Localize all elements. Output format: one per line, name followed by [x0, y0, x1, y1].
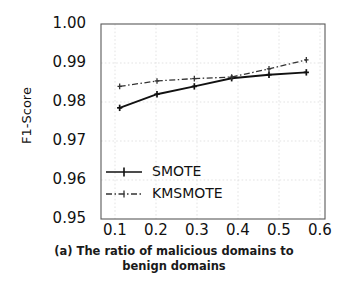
y-axis-label: F1-Score [19, 76, 34, 156]
x-tick-0-6: 0.6 [300, 223, 340, 238]
caption-line-1: (a) The ratio of malicious domains to [28, 244, 320, 259]
legend-label-kmsmote: KMSMOTE [152, 185, 223, 201]
x-tick-0-5: 0.5 [259, 223, 299, 238]
legend-item-kmsmote[interactable]: KMSMOTE [104, 182, 254, 204]
chart-legend: SMOTE KMSMOTE [104, 160, 254, 204]
figure-panel: 1.00 0.99 0.98 0.97 0.96 0.95 0.1 0.2 0.… [0, 0, 347, 296]
x-tick-0-2: 0.2 [136, 223, 176, 238]
legend-line-solid-icon [104, 164, 144, 178]
x-tick-0-1: 0.1 [95, 223, 135, 238]
legend-item-smote[interactable]: SMOTE [104, 160, 254, 182]
x-tick-0-4: 0.4 [218, 223, 258, 238]
legend-label-smote: SMOTE [152, 163, 201, 179]
figure-caption: (a) The ratio of malicious domains to be… [28, 244, 320, 274]
x-tick-0-3: 0.3 [177, 223, 217, 238]
legend-line-dashdot-icon [104, 186, 144, 200]
caption-line-2: benign domains [28, 259, 320, 274]
